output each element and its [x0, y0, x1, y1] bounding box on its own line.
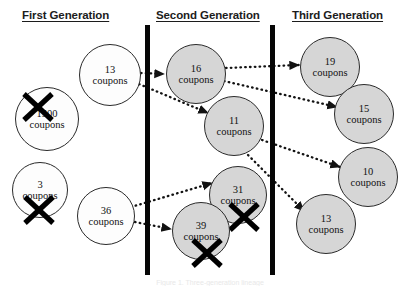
node-gen2-11: 11coupons — [204, 96, 264, 156]
node-gen3-13: 13coupons — [296, 194, 356, 254]
node-value: 39 — [196, 220, 207, 231]
node-unit-label: coupons — [351, 177, 386, 188]
node-value: 36 — [101, 205, 112, 216]
divider-2 — [270, 25, 275, 275]
node-value: 31 — [233, 184, 244, 195]
node-unit-label: coupons — [309, 224, 344, 235]
node-unit-label: coupons — [313, 67, 348, 78]
node-unit-label: coupons — [93, 75, 128, 86]
node-unit-label: coupons — [217, 126, 252, 137]
node-unit-label: coupons — [179, 74, 214, 85]
node-gen1-1500: 1500coupons — [15, 87, 79, 151]
node-gen1-3: 3coupons — [12, 162, 68, 218]
arrow-16-to-19 — [226, 65, 299, 68]
node-gen2-39: 39coupons — [172, 202, 230, 260]
node-gen2-16: 16coupons — [166, 44, 226, 104]
node-value: 13 — [321, 213, 332, 224]
node-gen1-36: 36coupons — [77, 187, 135, 245]
node-unit-label: coupons — [30, 119, 65, 130]
node-unit-label: coupons — [184, 231, 219, 242]
node-gen3-10: 10coupons — [338, 147, 398, 207]
node-value: 15 — [359, 103, 370, 114]
node-value: 3 — [37, 179, 42, 190]
column-header-third: Third Generation — [292, 9, 383, 21]
node-unit-label: coupons — [347, 114, 382, 125]
node-unit-label: coupons — [23, 190, 58, 201]
node-value: 19 — [325, 56, 336, 67]
node-gen3-15: 15coupons — [334, 84, 394, 144]
node-value: 11 — [229, 115, 239, 126]
divider-1 — [145, 25, 150, 275]
column-header-second: Second Generation — [156, 9, 260, 21]
node-value: 1500 — [37, 108, 58, 119]
lineage-diagram: First GenerationSecond GenerationThird G… — [0, 0, 420, 289]
node-value: 10 — [363, 166, 374, 177]
column-header-first: First Generation — [22, 9, 109, 21]
figure-caption: Figure 1. Three-generation lineage — [0, 279, 420, 286]
node-value: 16 — [191, 63, 202, 74]
node-gen1-13: 13coupons — [79, 44, 141, 106]
arrow-36-to-39 — [135, 222, 171, 229]
node-unit-label: coupons — [89, 216, 124, 227]
node-unit-label: coupons — [221, 195, 256, 206]
node-value: 13 — [105, 64, 116, 75]
